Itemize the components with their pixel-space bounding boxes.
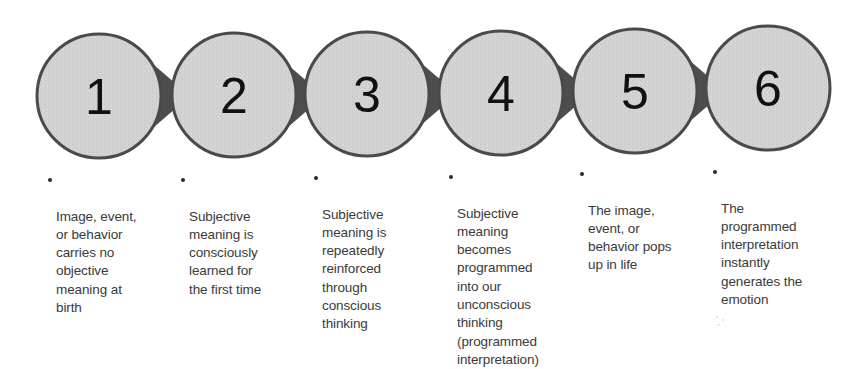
process-flow-diagram: 1 2 3 4 5 6	[0, 0, 866, 170]
step-6-node: 6	[706, 26, 830, 150]
step-number-1: 1	[85, 69, 113, 125]
step-number-5: 5	[621, 64, 649, 120]
step-2-node: 2	[172, 33, 324, 157]
step-5-description-text: The image, event, or behavior pops up in…	[588, 203, 672, 273]
step-5-description: The image, event, or behavior pops up in…	[580, 165, 708, 275]
step-2-description-text: Subjective meaning is consciously learne…	[189, 209, 261, 297]
step-number-3: 3	[353, 67, 381, 123]
step-4-node: 4	[439, 31, 591, 155]
step-1-bullet-item: Image, event, or behavior carries no obj…	[48, 171, 176, 317]
step-1-node: 1	[37, 34, 190, 158]
step-4-description-text: Subjective meaning becomes programmed in…	[457, 206, 539, 367]
step-2-bullet-item: Subjective meaning is consciously learne…	[181, 171, 309, 299]
step-3-node: 3	[305, 32, 457, 156]
step-1-description: Image, event, or behavior carries no obj…	[48, 171, 176, 317]
bullet-icon	[449, 175, 453, 179]
step-number-2: 2	[220, 68, 248, 124]
step-2-description: Subjective meaning is consciously learne…	[181, 171, 309, 299]
bullet-icon	[314, 176, 318, 180]
bullet-icon	[48, 178, 52, 182]
step-6-description-text: The programmed interpretation instantly …	[721, 201, 802, 307]
step-4-description: Subjective meaning becomes programmed in…	[449, 168, 577, 369]
step-6-bullet-item: The programmed interpretation instantly …	[713, 163, 841, 309]
step-3-description: Subjective meaning is repeatedly reinfor…	[314, 169, 442, 334]
step-3-bullet-item: Subjective meaning is repeatedly reinfor…	[314, 169, 442, 334]
bullet-icon	[181, 178, 185, 182]
bullet-icon	[713, 170, 717, 174]
scan-artifact	[713, 312, 727, 328]
step-6-description: The programmed interpretation instantly …	[713, 163, 841, 309]
step-number-4: 4	[487, 66, 515, 122]
bullet-icon	[580, 172, 584, 176]
step-5-node: 5	[573, 29, 725, 153]
step-4-bullet-item: Subjective meaning becomes programmed in…	[449, 168, 577, 369]
step-1-description-text: Image, event, or behavior carries no obj…	[56, 209, 137, 315]
step-3-description-text: Subjective meaning is repeatedly reinfor…	[322, 207, 386, 332]
step-number-6: 6	[754, 61, 782, 117]
step-5-bullet-item: The image, event, or behavior pops up in…	[580, 165, 708, 275]
